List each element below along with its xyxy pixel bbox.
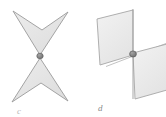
lower-right-plane-shape bbox=[133, 44, 166, 99]
upper-dart-shape bbox=[13, 11, 68, 55]
upper-left-plane-shape bbox=[97, 10, 133, 65]
plane-intersection-point bbox=[130, 51, 137, 57]
panel-c-group bbox=[12, 11, 68, 102]
lower-dart-shape bbox=[12, 58, 68, 102]
panel-label-d: d bbox=[98, 104, 103, 113]
panel-label-c: c bbox=[17, 107, 21, 116]
panel-d-group bbox=[97, 9, 166, 99]
geometry-figure: c d bbox=[0, 0, 166, 117]
shared-vertex-point bbox=[37, 53, 43, 59]
figure-canvas bbox=[0, 0, 166, 117]
